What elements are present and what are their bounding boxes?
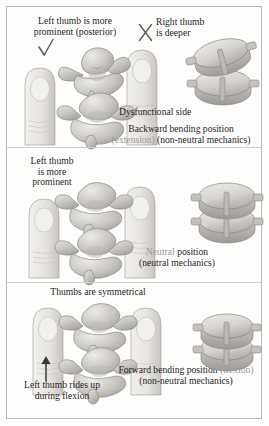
extension-left-finding-line2: prominent (posterior) [15,27,135,38]
upper-disc [191,183,263,219]
up-arrow-icon [40,355,52,381]
osteopathic-spinal-assessment-figure: Left thumb is more prominent (posterior)… [0,0,269,426]
neutral-position-qualifier: (neutral mechanics) [117,258,237,269]
extension-qualifier-dark: (non-neutral mechanics) [157,134,251,145]
neutral-position-name-light: Neutral [146,246,175,257]
extension-position-caption: Backward bending position (extension) (n… [105,124,257,145]
flexion-bottom-finding: Left thumb rides up during flexion [7,380,117,401]
dysfunctional-side-callout: Dysfunctional side [119,107,191,118]
panel-neutral: Left thumb is more prominent [7,148,261,283]
panel-forward-bending: Thumbs are symmetrical [7,283,261,418]
flexion-top-finding: Thumbs are symmetrical [33,287,163,298]
extension-position-qualifier: (extension) (non-neutral mechanics) [105,135,257,146]
panel-backward-bending: Left thumb is more prominent (posterior)… [7,7,261,148]
neutral-disc-pair-illustration [189,180,267,252]
left-thumb [29,199,59,278]
upper-disc [183,32,261,83]
extension-qualifier-light: (extension) [111,134,154,145]
extension-disc-pair-illustration [185,35,265,115]
extension-left-finding: Left thumb is more prominent (posterior) [15,16,135,37]
flexion-bottom-finding-line2: during flexion [7,391,117,402]
left-thumb [25,68,55,145]
flexion-disc-pair-illustration [189,309,267,379]
